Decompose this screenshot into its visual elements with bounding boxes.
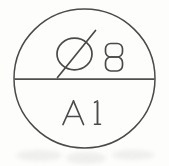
symbol-vector	[0, 0, 169, 166]
diameter-icon	[57, 38, 92, 70]
lower-number-1	[95, 101, 101, 125]
lower-letter-A	[63, 101, 84, 125]
drawing-canvas: Ø 8 A 1	[0, 0, 169, 166]
upper-value-8	[106, 44, 123, 72]
